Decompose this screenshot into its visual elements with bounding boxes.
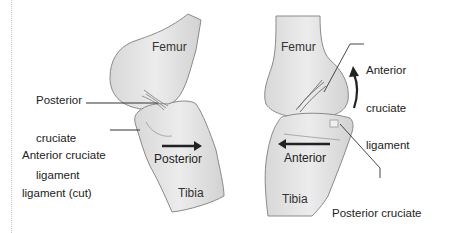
right-tibia-label: Tibia <box>282 192 308 206</box>
right-femur-shape <box>265 16 349 118</box>
anterior-direction-label: Anterior <box>284 151 326 165</box>
right-femur-label: Femur <box>281 40 316 54</box>
acl-label: Anterior cruciate ligament <box>366 39 409 164</box>
left-femur-shape <box>110 14 201 110</box>
left-femur-label: Femur <box>152 40 187 54</box>
acl-cut-label: Anterior cruciate ligament (cut) <box>22 124 106 212</box>
curved-up-arrow-icon <box>349 66 359 108</box>
left-tibia-label: Tibia <box>178 186 204 200</box>
pcl-cut-label: Posterior cruciate ligament (cut) <box>332 182 421 233</box>
posterior-direction-label: Posterior <box>154 152 202 166</box>
